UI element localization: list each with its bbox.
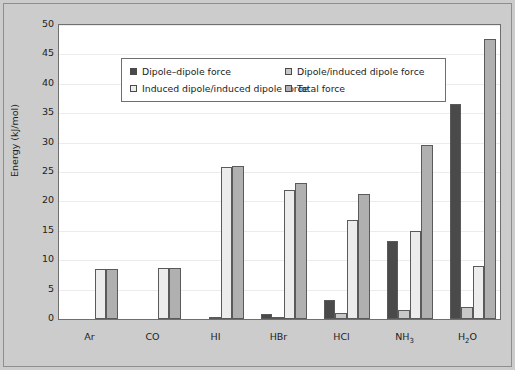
y-tick-label: 50 [14, 19, 54, 29]
x-axis: ArCOHIHBrHClNH3H2O [58, 321, 501, 351]
chart-legend: Dipole–dipole forceDipole/induced dipole… [121, 58, 446, 102]
bar [421, 145, 433, 319]
y-tick-label: 45 [14, 48, 54, 58]
y-tick-label: 10 [14, 254, 54, 264]
legend-label: Total force [297, 83, 345, 94]
bar [358, 194, 370, 319]
legend-swatch-icon [285, 68, 292, 75]
x-tick-label: H2O [436, 331, 499, 345]
bar [295, 183, 307, 319]
legend-item: Induced dipole/induced dipole force [130, 83, 308, 94]
bar [450, 104, 462, 319]
x-tick-label: HI [184, 331, 247, 342]
legend-label: Dipole–dipole force [142, 66, 231, 77]
legend-swatch-icon [130, 85, 137, 92]
bar [461, 307, 473, 319]
y-axis: Energy (kJ/mol) 05101520253035404550 [0, 0, 58, 345]
legend-label: Dipole/induced dipole force [297, 66, 424, 77]
y-tick-label: 40 [14, 78, 54, 88]
y-tick-label: 25 [14, 166, 54, 176]
bar [209, 317, 221, 319]
legend-item: Dipole–dipole force [130, 66, 231, 77]
bar [387, 241, 399, 319]
bar [335, 313, 347, 319]
bar [484, 39, 496, 319]
bar [324, 300, 336, 319]
bar [158, 268, 170, 319]
legend-item: Dipole/induced dipole force [285, 66, 424, 77]
chart-figure: Energy (kJ/mol) 05101520253035404550 Dip… [0, 0, 515, 370]
y-tick-label: 35 [14, 107, 54, 117]
bar [169, 268, 181, 319]
bar [272, 317, 284, 319]
x-tick-label: NH3 [373, 331, 436, 345]
bar [232, 166, 244, 319]
bar [221, 167, 233, 319]
x-tick-label: HBr [247, 331, 310, 342]
x-tick-label: CO [121, 331, 184, 342]
y-tick-label: 0 [14, 313, 54, 323]
x-tick-label: HCl [310, 331, 373, 342]
y-tick-label: 20 [14, 195, 54, 205]
y-tick-label: 30 [14, 137, 54, 147]
bar [284, 190, 296, 319]
x-tick-label: Ar [58, 331, 121, 342]
y-tick-label: 15 [14, 225, 54, 235]
bar [473, 266, 485, 319]
legend-swatch-icon [285, 85, 292, 92]
bar [106, 269, 118, 319]
legend-item: Total force [285, 83, 345, 94]
bar [347, 220, 359, 319]
y-tick-label: 5 [14, 284, 54, 294]
bar [398, 310, 410, 319]
bar [261, 314, 273, 319]
bar [95, 269, 107, 319]
plot-area: Dipole–dipole forceDipole/induced dipole… [58, 24, 501, 320]
legend-swatch-icon [130, 68, 137, 75]
legend-label: Induced dipole/induced dipole force [142, 83, 308, 94]
bar [410, 231, 422, 319]
